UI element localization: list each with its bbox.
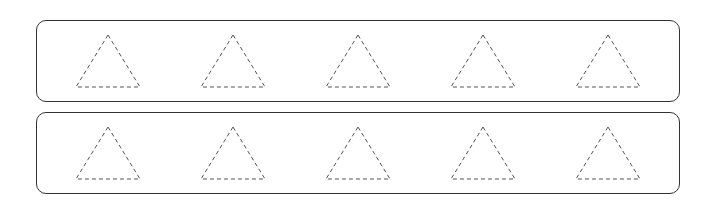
dashed-triangle-icon — [450, 126, 516, 180]
dashed-triangle-icon — [200, 34, 266, 88]
dashed-triangle-icon — [575, 126, 641, 180]
dashed-triangle-icon — [325, 34, 391, 88]
dashed-triangle-icon — [575, 34, 641, 88]
dashed-triangle-icon — [75, 34, 141, 88]
dashed-triangle-icon — [200, 126, 266, 180]
dashed-triangle-icon — [325, 126, 391, 180]
dashed-triangle-icon — [75, 126, 141, 180]
dashed-triangle-icon — [450, 34, 516, 88]
